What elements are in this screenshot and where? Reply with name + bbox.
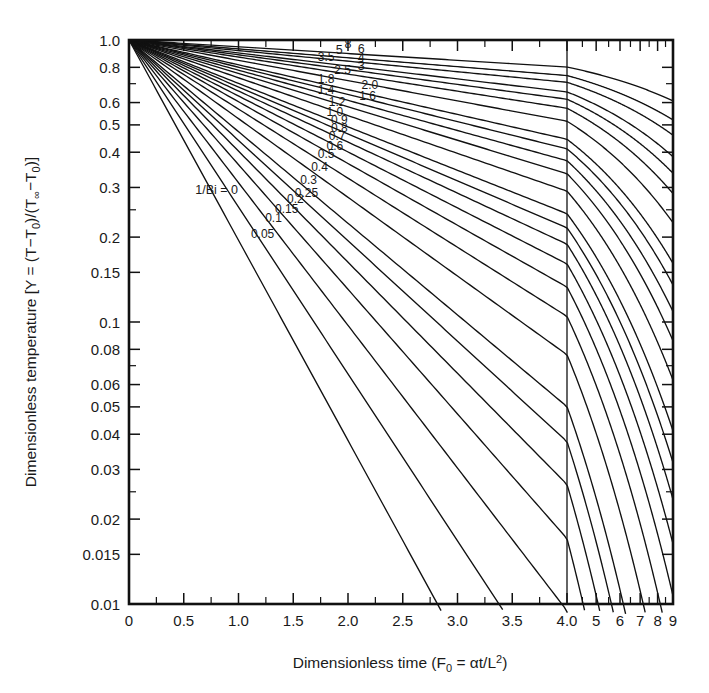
curve-line	[129, 40, 600, 611]
curve-line	[129, 40, 441, 611]
curve-lines-group	[129, 40, 673, 614]
curve-line	[129, 40, 567, 613]
curve-line	[129, 40, 673, 463]
y-tick-label: 0.5	[99, 116, 120, 133]
curve-label: 1.6	[359, 89, 376, 103]
x-tick-label: 8	[653, 612, 661, 629]
y-tick-label: 0.1	[99, 314, 120, 331]
curve-line	[129, 40, 673, 312]
curve-line	[129, 40, 673, 263]
curve-line	[129, 40, 645, 612]
y-tick-label: 0.05	[91, 398, 120, 415]
curve-line	[129, 40, 503, 610]
y-tick-label: 0.04	[91, 426, 120, 443]
svg-text:Dimensionless time (F0 = αt/L: Dimensionless time (F0 = αt/L2)	[293, 653, 508, 674]
x-axis-tick-labels: 00.51.01.52.02.53.03.54.056789	[125, 612, 677, 629]
x-tick-label: 9	[669, 612, 677, 629]
x-tick-label: 3.5	[502, 612, 523, 629]
curve-label: 0.05	[251, 227, 275, 241]
axis-ticks-group	[129, 40, 673, 604]
curve-label: 0.4	[311, 160, 328, 174]
curve-line	[129, 40, 585, 610]
x-tick-label: 5	[592, 612, 600, 629]
x-tick-label: 0.5	[173, 612, 194, 629]
y-tick-label: 0.6	[99, 94, 120, 111]
curve-label: 2.5	[334, 63, 351, 77]
svg-text:Dimensionless temperature [Y: Dimensionless temperature [Y = (T−T0)/(T…	[22, 157, 42, 487]
x-tick-label: 0	[125, 612, 133, 629]
y-axis-title: Dimensionless temperature [Y = (T−T0)/(T…	[22, 157, 42, 487]
x-tick-label: 4.0	[557, 612, 578, 629]
y-tick-label: 0.02	[91, 511, 120, 528]
plot-frame	[129, 40, 673, 604]
x-tick-label: 3.0	[447, 612, 468, 629]
curve-label: 3.5	[318, 50, 335, 64]
curve-label: 0.1	[265, 211, 282, 225]
x-tick-label: 2.5	[392, 612, 413, 629]
y-tick-label: 0.8	[99, 59, 120, 76]
y-tick-label: 0.4	[99, 144, 120, 161]
y-tick-label: 0.08	[91, 341, 120, 358]
curve-line	[129, 40, 673, 135]
curve-label: 8	[345, 37, 352, 51]
chart-svg: 1.00.80.60.50.40.30.20.150.10.080.060.05…	[0, 0, 709, 693]
x-tick-label: 1.5	[283, 612, 304, 629]
y-axis-tick-labels: 1.00.80.60.50.40.30.20.150.10.080.060.05…	[82, 32, 120, 613]
x-axis-title: Dimensionless time (F0 = αt/L2)	[293, 653, 508, 674]
y-tick-label: 0.15	[91, 264, 120, 281]
x-tick-label: 2.0	[338, 612, 359, 629]
y-tick-label: 0.06	[91, 376, 120, 393]
y-tick-label: 0.2	[99, 229, 120, 246]
heisler-chart-figure: 1.00.80.60.50.40.30.20.150.10.080.060.05…	[0, 0, 709, 693]
plot-border	[129, 40, 673, 604]
y-tick-label: 1.0	[99, 32, 120, 49]
curve-line	[129, 40, 613, 612]
x-tick-label: 1.0	[228, 612, 249, 629]
y-tick-label: 0.015	[82, 546, 120, 563]
y-tick-label: 0.01	[91, 596, 120, 613]
curve-label: 5	[336, 43, 343, 57]
x-tick-label: 7	[636, 612, 644, 629]
y-tick-label: 0.03	[91, 461, 120, 478]
y-tick-label: 0.3	[99, 179, 120, 196]
curve-label: 3	[358, 59, 365, 73]
parameter-note-label: 1/Bi = 0	[195, 183, 238, 197]
x-tick-label: 6	[616, 612, 624, 629]
